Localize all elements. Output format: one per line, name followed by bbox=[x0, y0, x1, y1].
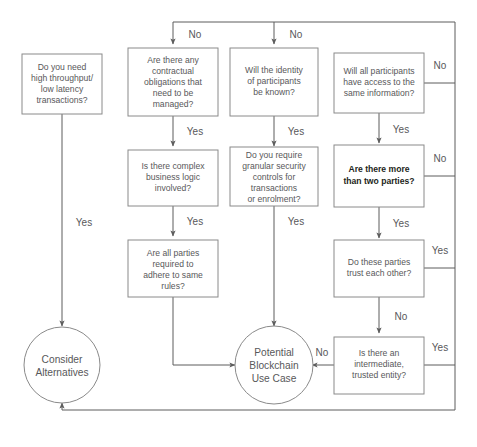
node-business-logic-line-0: Is there complex bbox=[141, 161, 205, 171]
edge-label-yes-access: Yes bbox=[393, 124, 409, 135]
node-throughput-line-1: high throughput/ bbox=[31, 73, 94, 83]
node-two-parties-line-0: Are there more bbox=[348, 164, 409, 174]
edge-label-yes-granular: Yes bbox=[288, 216, 304, 227]
node-contractual-line-2: obligations that bbox=[144, 77, 202, 87]
flowchart-svg: Do you need high throughput/ low latency… bbox=[0, 0, 477, 447]
edge-label-yes-throughput: Yes bbox=[76, 217, 92, 228]
node-intermediate[interactable]: Is there an intermediate, trusted entity… bbox=[334, 337, 424, 394]
node-blockchain-line-0: Potential bbox=[254, 347, 294, 358]
edge-label-yes-intermediate: Yes bbox=[432, 342, 448, 353]
node-access-line-0: Will all participants bbox=[343, 66, 414, 76]
edge-label-no-to-contractual: No bbox=[189, 29, 202, 40]
node-business-logic-line-1: business logic bbox=[146, 172, 201, 182]
node-granular-security[interactable]: Do you require granular security control… bbox=[230, 147, 318, 206]
node-business-logic-line-2: involved? bbox=[155, 183, 192, 193]
node-throughput-line-3: transactions? bbox=[36, 95, 87, 105]
edge-label-yes-business-logic: Yes bbox=[187, 216, 203, 227]
node-same-rules-line-2: adhere to same bbox=[143, 270, 203, 280]
flowchart-canvas: Do you need high throughput/ low latency… bbox=[0, 0, 477, 447]
edge-label-yes-two-parties: Yes bbox=[393, 218, 409, 229]
edge-label-no-access-right: No bbox=[434, 60, 447, 71]
node-blockchain-line-2: Use Case bbox=[252, 373, 297, 384]
node-granular-line-0: Do you require bbox=[246, 150, 303, 160]
node-granular-line-2: controls for bbox=[253, 172, 296, 182]
node-access-line-1: have access to the bbox=[343, 77, 415, 87]
edge-label-no-intermediate: No bbox=[316, 347, 329, 358]
node-identity-line-2: be known? bbox=[253, 87, 295, 97]
node-trust-line-1: trust each other? bbox=[347, 268, 412, 278]
node-same-rules-line-1: required to bbox=[152, 259, 193, 269]
node-same-rules-line-3: rules? bbox=[161, 281, 185, 291]
node-intermediate-line-0: Is there an bbox=[359, 348, 400, 358]
node-throughput-line-0: Do you need bbox=[38, 62, 87, 72]
node-two-parties-line-1: than two parties? bbox=[343, 176, 414, 186]
node-contractual[interactable]: Are there any contractual obligations th… bbox=[128, 48, 218, 116]
node-same-rules[interactable]: Are all parties required to adhere to sa… bbox=[128, 240, 218, 297]
node-granular-line-1: granular security bbox=[242, 161, 306, 171]
node-identity-line-1: of participants bbox=[247, 76, 301, 86]
edge-label-yes-trust-right: Yes bbox=[432, 245, 448, 256]
node-contractual-line-1: contractual bbox=[152, 66, 194, 76]
node-throughput-line-2: low latency bbox=[41, 84, 84, 94]
node-alternatives-line-0: Consider bbox=[42, 354, 83, 365]
node-access[interactable]: Will all participants have access to the… bbox=[334, 53, 424, 113]
node-identity-line-0: Will the identity bbox=[245, 65, 303, 75]
node-granular-line-4: or enrolment? bbox=[247, 194, 300, 204]
edge-label-no-two-parties: No bbox=[434, 153, 447, 164]
edge-label-no-to-identity: No bbox=[290, 29, 303, 40]
node-blockchain-line-1: Blockchain bbox=[249, 360, 298, 371]
node-throughput[interactable]: Do you need high throughput/ low latency… bbox=[22, 54, 102, 114]
node-granular-line-3: transactions bbox=[251, 183, 297, 193]
node-intermediate-line-2: trusted entity? bbox=[352, 370, 406, 380]
node-contractual-line-3: need to be bbox=[153, 88, 194, 98]
edge-label-yes-contractual: Yes bbox=[187, 126, 203, 137]
node-trust[interactable]: Do these parties trust each other? bbox=[334, 240, 424, 297]
node-intermediate-line-1: intermediate, bbox=[354, 359, 404, 369]
edge-same-rules-to-blockchain bbox=[173, 297, 235, 365]
node-access-line-2: same information? bbox=[344, 88, 415, 98]
edge-bottom-bus bbox=[62, 403, 455, 410]
node-consider-alternatives[interactable]: Consider Alternatives bbox=[24, 327, 100, 403]
node-contractual-line-4: managed? bbox=[153, 99, 194, 109]
node-business-logic[interactable]: Is there complex business logic involved… bbox=[128, 150, 218, 206]
edge-label-yes-identity: Yes bbox=[288, 126, 304, 137]
node-same-rules-line-0: Are all parties bbox=[147, 248, 200, 258]
edge-label-no-trust: No bbox=[395, 311, 408, 322]
node-identity[interactable]: Will the identity of participants be kno… bbox=[230, 48, 318, 116]
node-contractual-line-0: Are there any bbox=[147, 55, 199, 65]
node-alternatives-line-1: Alternatives bbox=[35, 367, 88, 378]
node-two-parties[interactable]: Are there more than two parties? bbox=[334, 145, 424, 207]
node-potential-blockchain[interactable]: Potential Blockchain Use Case bbox=[235, 326, 313, 404]
node-trust-line-0: Do these parties bbox=[348, 257, 411, 267]
